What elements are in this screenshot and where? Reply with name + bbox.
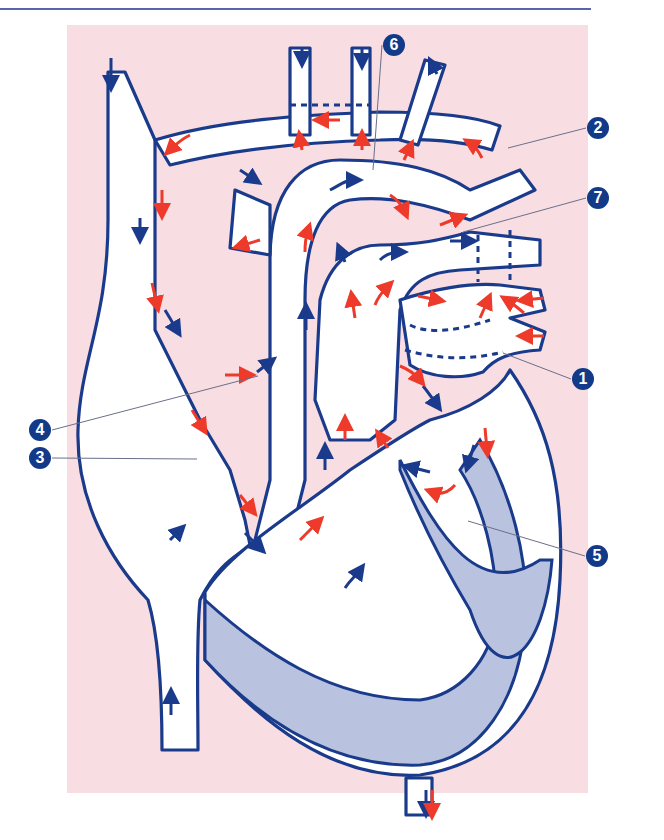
arrow-blue	[257, 362, 270, 372]
arrow-red	[524, 298, 544, 300]
callout-3: 3	[29, 447, 51, 469]
brachiocephalic-artery	[290, 48, 310, 135]
left-pulmonary-branch	[230, 190, 270, 255]
heart-diagram	[0, 0, 664, 840]
descending-aorta	[406, 778, 432, 815]
callout-number: 4	[36, 421, 45, 438]
arrow-blue	[240, 170, 255, 180]
arrow-blue	[423, 386, 437, 405]
leader-line	[373, 45, 382, 170]
callout-6: 6	[383, 34, 405, 56]
figure-stage: 1 2 3 4 5 6 7	[0, 0, 664, 840]
callout-7: 7	[587, 187, 609, 209]
callout-4: 4	[29, 419, 51, 441]
arrow-red	[404, 147, 410, 160]
arrow-blue	[165, 310, 177, 330]
callout-number: 2	[594, 119, 603, 136]
callout-number: 7	[594, 189, 603, 206]
callout-1: 1	[572, 368, 594, 390]
arrow-red	[485, 428, 487, 450]
callout-number: 5	[593, 547, 602, 564]
callout-number: 3	[36, 449, 45, 466]
arrow-red	[440, 217, 460, 225]
arrow-red	[300, 138, 302, 150]
callout-5: 5	[586, 545, 608, 567]
callout-number: 6	[390, 36, 399, 53]
callout-number: 1	[579, 370, 588, 387]
callout-2: 2	[587, 117, 609, 139]
leader-line	[508, 128, 586, 148]
